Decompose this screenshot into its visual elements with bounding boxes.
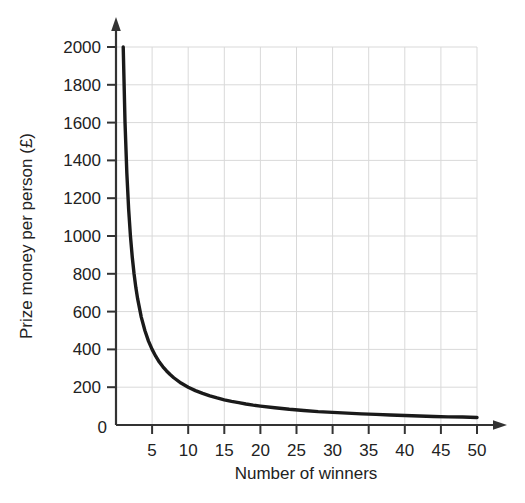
y-tick-label: 1600	[63, 114, 101, 133]
x-tick-label: 25	[287, 441, 306, 460]
x-tick-label: 40	[395, 441, 414, 460]
x-tick-label: 15	[215, 441, 234, 460]
y-tick-label: 400	[73, 340, 101, 359]
x-tick-label: 20	[251, 441, 270, 460]
y-tick-label: 1000	[63, 227, 101, 246]
y-tick-label: 1800	[63, 76, 101, 95]
y-tick-label: 600	[73, 303, 101, 322]
x-axis-title: Number of winners	[235, 464, 378, 483]
x-tick-label: 50	[468, 441, 487, 460]
y-tick-label: 2000	[63, 38, 101, 57]
x-tick-label: 30	[323, 441, 342, 460]
y-axis-title: Prize money per person (£)	[17, 133, 36, 339]
x-tick-label: 10	[179, 441, 198, 460]
chart-figure: 200400600800100012001400160018002000 510…	[0, 0, 525, 503]
chart-canvas: 200400600800100012001400160018002000 510…	[0, 0, 525, 503]
y-tick-label: 800	[73, 265, 101, 284]
y-tick-label: 1200	[63, 189, 101, 208]
x-tick-label: 35	[359, 441, 378, 460]
x-tick-label: 45	[431, 441, 450, 460]
x-tick-label: 5	[147, 441, 156, 460]
y-tick-label: 1400	[63, 151, 101, 170]
origin-zero-label: 0	[98, 418, 107, 437]
y-tick-label: 200	[73, 378, 101, 397]
